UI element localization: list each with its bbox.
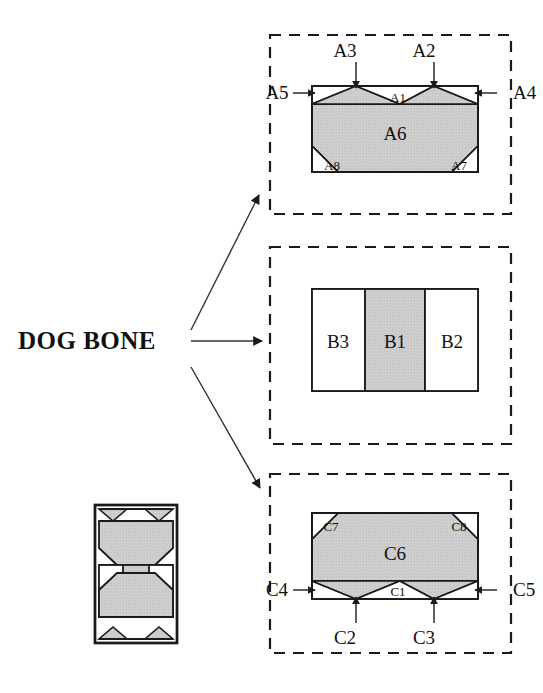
label-a7: A7 xyxy=(451,158,467,173)
dog-bone-thumbnail xyxy=(95,505,177,643)
label-a8: A8 xyxy=(324,158,340,173)
label-b2: B2 xyxy=(441,331,463,352)
label-c7: C7 xyxy=(323,519,339,534)
label-b1: B1 xyxy=(384,331,406,352)
label-a6: A6 xyxy=(383,123,406,144)
diagram-canvas: DOG BONE xyxy=(0,0,543,693)
label-c3: C3 xyxy=(413,627,435,648)
label-c4: C4 xyxy=(266,579,289,600)
label-a3: A3 xyxy=(333,40,356,61)
label-a1: A1 xyxy=(390,90,406,105)
label-a4: A4 xyxy=(513,82,537,103)
label-c6: C6 xyxy=(384,543,406,564)
label-c1: C1 xyxy=(390,584,405,599)
label-a2: A2 xyxy=(412,40,435,61)
label-a5: A5 xyxy=(265,82,288,103)
label-b3: B3 xyxy=(327,331,349,352)
label-c8: C8 xyxy=(451,519,466,534)
label-c5: C5 xyxy=(513,579,535,600)
page-title: DOG BONE xyxy=(18,327,156,354)
label-c2: C2 xyxy=(334,627,356,648)
